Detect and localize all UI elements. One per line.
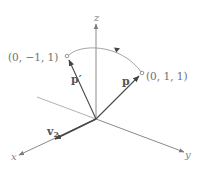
p-point: [140, 71, 144, 75]
p-prime-label: p′: [71, 73, 82, 86]
p-vector: [96, 76, 139, 119]
p-prime-coordinate-label: (0, −1, 1): [8, 51, 58, 63]
x-axis-label: x: [11, 151, 17, 162]
z-axis-label: z: [93, 12, 100, 23]
p-coordinate-label: (0, 1, 1): [146, 70, 188, 82]
rotation-diagram: z y x p p′ v2 (0, 1, 1) (0, −1, 1): [0, 0, 201, 171]
rotation-arc: [68, 48, 142, 73]
p-label: p: [122, 75, 130, 88]
y-axis-label: y: [184, 149, 191, 160]
p-prime-point: [65, 54, 69, 58]
y-axis: [96, 119, 184, 152]
v2-vector: [55, 119, 96, 139]
v2-label: v2: [46, 125, 59, 139]
